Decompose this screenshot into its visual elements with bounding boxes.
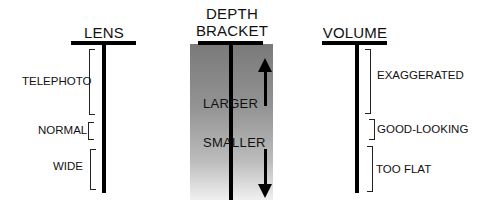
too-flat-bracket: [367, 146, 373, 192]
exaggerated-label: EXAGGERATED: [377, 69, 464, 82]
smaller-label: SMALLER: [203, 135, 266, 150]
normal-bracket: [88, 122, 94, 140]
good-looking-bracket: [369, 119, 375, 140]
exaggerated-bracket: [365, 49, 371, 114]
depth-title-line1: DEPTH: [190, 5, 274, 22]
too-flat-label: TOO FLAT: [376, 163, 431, 176]
depth-stem: [229, 41, 233, 200]
arrow-up-shaft: [264, 70, 267, 106]
arrow-down-icon: [258, 184, 272, 198]
larger-label: LARGER: [203, 96, 258, 111]
volume-title: VOLUME: [320, 24, 390, 41]
normal-label: NORMAL: [38, 124, 87, 137]
volume-stem: [355, 41, 359, 193]
lens-stem: [102, 41, 106, 193]
lens-title: LENS: [73, 24, 135, 41]
wide-bracket: [90, 149, 96, 190]
depth-title-line2: BRACKET: [190, 22, 274, 39]
good-looking-label: GOOD-LOOKING: [377, 123, 468, 136]
arrow-down-shaft: [264, 149, 267, 186]
wide-label: WIDE: [53, 160, 83, 173]
telephoto-label: TELEPHOTO: [22, 75, 91, 88]
